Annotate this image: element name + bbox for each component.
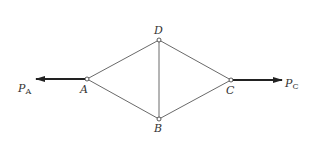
node-label-C: C: [226, 84, 235, 97]
truss-members: [87, 40, 231, 119]
member-DC: [159, 40, 231, 80]
force-label-PA: PA: [17, 82, 31, 96]
node-A: [85, 77, 89, 81]
node-B: [157, 117, 161, 121]
node-label-A: A: [79, 83, 88, 96]
node-label-D: D: [153, 24, 163, 37]
node-label-B: B: [153, 122, 162, 135]
member-AD: [87, 40, 159, 79]
node-D: [157, 38, 161, 42]
force-label-PC: PC: [284, 77, 299, 91]
member-CB: [159, 80, 231, 119]
member-BA: [87, 79, 159, 119]
truss-diagram: PAPCADCB: [0, 0, 313, 147]
node-C: [229, 78, 233, 82]
